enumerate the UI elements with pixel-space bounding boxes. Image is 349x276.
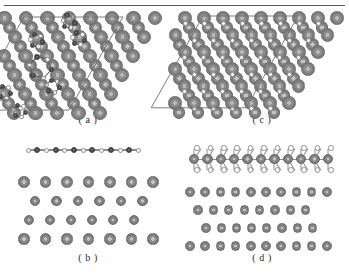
substrate-atom-row1	[292, 187, 302, 197]
overlayer-top-open-atom	[328, 145, 334, 151]
substrate-atom-row4	[147, 233, 158, 244]
overlayer-mid-atom	[296, 154, 307, 165]
overlayer-dark-atom	[0, 84, 5, 89]
substrate-atom-row4	[104, 233, 115, 244]
substrate-atom-row3	[262, 223, 271, 232]
substrate-atom-row2	[240, 205, 249, 214]
overlayer-open-atom	[99, 148, 104, 153]
overlayer-mid-atom	[256, 154, 267, 165]
substrate-atom-row3	[308, 223, 317, 232]
substrate-atom-row4	[61, 233, 72, 244]
overlayer-bottom-open-atom	[288, 167, 294, 173]
overlayer-bottom-open-atom	[328, 167, 334, 173]
overlayer-dark-atom	[126, 147, 132, 153]
panel-b-stage	[6, 140, 170, 268]
unit-cell-c-overlay	[180, 10, 349, 130]
substrate-atom-row1	[18, 176, 30, 188]
overlayer-open-atom	[136, 148, 141, 153]
substrate-atom-row1	[322, 187, 332, 197]
substrate-atom-row4	[307, 241, 317, 251]
substrate-atom-row1	[261, 187, 271, 197]
figure-canvas: ( a ) ( c ) ( b ) ( d )	[0, 0, 349, 276]
substrate-atom-row1	[276, 187, 286, 197]
substrate-atom-row2	[224, 205, 233, 214]
overlayer-top-open-atom	[221, 145, 227, 151]
overlayer-mid-atom	[242, 154, 253, 165]
substrate-atom-row2	[286, 205, 295, 214]
overlayer-open-atom	[62, 148, 67, 153]
substrate-atom-row3	[87, 215, 98, 226]
overlayer-bottom-open-atom	[261, 167, 267, 173]
panel-c-top-view: ( c )	[180, 10, 344, 128]
overlayer-top-open-atom	[275, 145, 281, 151]
substrate-atom-row4	[126, 233, 137, 244]
substrate-atom-row1	[246, 187, 256, 197]
substrate-atom-row1	[61, 176, 73, 188]
substrate-atom-row4	[292, 241, 302, 251]
overlayer-mid-atom	[309, 154, 320, 165]
overlayer-top-open-atom	[261, 145, 267, 151]
substrate-atom-row1	[200, 187, 210, 197]
overlayer-mid-atom	[202, 154, 213, 165]
substrate-atom-row1	[147, 176, 159, 188]
substrate-atom-row3	[24, 215, 35, 226]
overlayer-bottom-open-atom	[248, 167, 254, 173]
overlayer-dark-atom	[71, 147, 77, 153]
panel-b-side-view: ( b )	[6, 140, 170, 268]
overlayer-open-atom	[44, 148, 49, 153]
overlayer-open-atom	[81, 148, 86, 153]
panel-d-caption: ( d )	[180, 252, 344, 263]
unit-cell-a	[0, 17, 123, 110]
substrate-atom-row2	[301, 205, 310, 214]
substrate-atom-row2	[209, 205, 218, 214]
substrate-atom-row4	[18, 233, 29, 244]
substrate-atom-row3	[45, 215, 56, 226]
substrate-atom-row2	[270, 205, 279, 214]
substrate-atom-row4	[83, 233, 94, 244]
substrate-atom-row2	[193, 205, 202, 214]
overlayer-mid-atom	[323, 154, 334, 165]
substrate-atom-row4	[216, 241, 226, 251]
substrate-atom-row1	[126, 176, 138, 188]
overlayer-dark-atom	[34, 147, 40, 153]
substrate-atom-row2	[116, 196, 127, 207]
substrate-atom-row4	[200, 241, 210, 251]
substrate-atom-row2	[255, 205, 264, 214]
substrate-atom-row3	[201, 223, 210, 232]
substrate-atom-row2	[51, 196, 62, 207]
panel-d-side-view: ( d )	[180, 140, 344, 268]
substrate-atom-row4	[185, 241, 195, 251]
overlayer-mid-atom	[229, 154, 240, 165]
overlayer-top-open-atom	[301, 145, 307, 151]
overlayer-mid-atom	[216, 154, 227, 165]
overlayer-dark-atom	[89, 147, 95, 153]
overlayer-bottom-open-atom	[301, 167, 307, 173]
substrate-atom-row3	[108, 215, 119, 226]
substrate-atom-row1	[307, 187, 317, 197]
substrate-atom-row1	[40, 176, 52, 188]
substrate-atom-row3	[232, 223, 241, 232]
overlayer-top-open-atom	[234, 145, 240, 151]
panel-c-stage	[180, 10, 344, 128]
substrate-atom-row4	[322, 241, 332, 251]
substrate-atom-row3	[277, 223, 286, 232]
substrate-atom-row4	[276, 241, 286, 251]
panel-a-stage	[6, 10, 170, 128]
substrate-atom-row4	[40, 233, 51, 244]
overlayer-top-open-atom	[194, 145, 200, 151]
overlayer-bottom-open-atom	[208, 167, 214, 173]
substrate-atom-row3	[247, 223, 256, 232]
overlayer-mid-atom	[283, 154, 294, 165]
substrate-atom-row3	[293, 223, 302, 232]
overlayer-bottom-open-atom	[315, 167, 321, 173]
overlayer-top-open-atom	[288, 145, 294, 151]
substrate-atom-row2	[30, 196, 41, 207]
overlayer-dark-atom	[53, 147, 59, 153]
substrate-atom-row3	[66, 215, 77, 226]
overlayer-top-open-atom	[208, 145, 214, 151]
overlayer-bottom-open-atom	[275, 167, 281, 173]
substrate-atom-row3	[217, 223, 226, 232]
substrate-atom-row1	[104, 176, 116, 188]
overlayer-bottom-open-atom	[194, 167, 200, 173]
overlayer-bottom-open-atom	[221, 167, 227, 173]
